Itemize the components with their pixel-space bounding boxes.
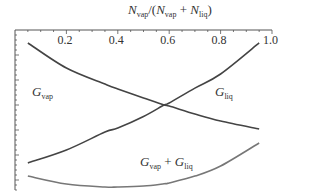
x-title-sub-vap: vap bbox=[137, 10, 149, 19]
label-g-liq: Gliq bbox=[215, 84, 233, 101]
g-liq-sub: liq bbox=[224, 92, 232, 101]
label-g-sum: Gvap + Gliq bbox=[140, 154, 193, 171]
x-title-n3: N bbox=[190, 2, 199, 17]
x-tick-label: 0.2 bbox=[57, 33, 72, 48]
g-liq-symbol: G bbox=[215, 84, 224, 99]
x-axis-title: Nvap/(Nvap + Nliq) bbox=[128, 2, 212, 19]
x-title-close: ) bbox=[207, 2, 211, 17]
g-sum-sub-2: liq bbox=[184, 162, 192, 171]
x-title-n2: N bbox=[156, 2, 165, 17]
label-g-vap: Gvap bbox=[32, 84, 53, 101]
g-sum-symbol-2: G bbox=[175, 154, 184, 169]
g-vap-symbol: G bbox=[32, 84, 41, 99]
g-sum-sub-1: vap bbox=[149, 162, 161, 171]
x-tick-label: 1.0 bbox=[263, 33, 278, 48]
g-sum-plus: + bbox=[164, 154, 171, 169]
x-title-sub-vap2: vap bbox=[165, 10, 177, 19]
curve-g-liq bbox=[28, 43, 259, 163]
x-tick-label: 0.6 bbox=[160, 33, 175, 48]
x-tick-label: 0.4 bbox=[109, 33, 124, 48]
x-title-n: N bbox=[128, 2, 137, 17]
g-vap-sub: vap bbox=[41, 92, 53, 101]
x-title-slash: /( bbox=[148, 2, 156, 17]
x-title-plus: + bbox=[180, 2, 187, 17]
x-tick-label: 0.8 bbox=[212, 33, 227, 48]
g-sum-symbol-1: G bbox=[140, 154, 149, 169]
